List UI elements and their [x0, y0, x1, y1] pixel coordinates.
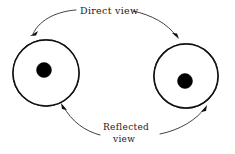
reflected-view-arc-right	[160, 108, 205, 134]
right-object-dot	[178, 74, 193, 89]
reflected-view-arrowhead-right	[201, 105, 207, 112]
reflected-view-arc-left	[63, 106, 100, 135]
reflected-view-arrowhead-left	[61, 103, 67, 110]
diagram-illustration: Direct view Reflected view	[0, 0, 235, 154]
reflected-view-label-line1: Reflected	[103, 122, 149, 132]
left-object-dot	[37, 63, 52, 78]
diagram-canvas: Direct view Reflected view	[0, 0, 235, 154]
right-circle-group	[154, 44, 219, 109]
left-circle-group	[13, 40, 80, 107]
direct-view-arc-left	[33, 10, 76, 34]
direct-view-arrowhead-right	[172, 33, 179, 39]
direct-view-label: Direct view	[80, 5, 138, 16]
reflected-view-label-line2: view	[112, 134, 135, 144]
direct-view-arc-right	[133, 11, 176, 36]
